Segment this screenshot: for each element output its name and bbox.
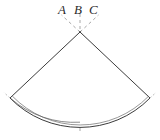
- label-c: C: [89, 3, 98, 16]
- apex-point: [79, 31, 81, 33]
- label-a: A: [58, 3, 66, 16]
- sector-diagram-svg: [0, 0, 160, 140]
- ray-a-dashed-line: [62, 15, 81, 32]
- right-vertex-dashed-extension: [150, 93, 156, 99]
- label-b: B: [74, 3, 82, 16]
- sector-outline-path: [10, 32, 150, 127]
- ray-c-dashed-line: [80, 15, 99, 32]
- geometry-figure: A B C: [0, 0, 160, 140]
- left-vertex-dashed-extension: [4, 93, 10, 99]
